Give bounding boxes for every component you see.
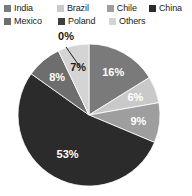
legend-item-chile[interactable]: Chile bbox=[107, 2, 149, 14]
chart-legend: IndiaBrazilChileChina MexicoPolandOthers bbox=[0, 0, 192, 26]
legend-row: IndiaBrazilChileChina bbox=[0, 2, 192, 14]
legend-label-chile: Chile bbox=[117, 3, 137, 13]
callout-label-0-percent: 0% bbox=[58, 30, 74, 42]
legend-swatch-chile bbox=[107, 5, 114, 12]
slice-value-label-mexico: 8% bbox=[49, 71, 65, 83]
legend-item-brazil[interactable]: Brazil bbox=[57, 2, 107, 14]
slice-value-label-india: 16% bbox=[102, 66, 124, 78]
legend-swatch-poland bbox=[58, 18, 65, 25]
slice-value-label-brazil: 6% bbox=[127, 91, 143, 103]
legend-swatch-india bbox=[4, 5, 11, 12]
legend-label-china: China bbox=[159, 3, 182, 13]
legend-swatch-others bbox=[109, 18, 116, 25]
legend-item-india[interactable]: India bbox=[0, 2, 57, 14]
legend-swatch-brazil bbox=[57, 5, 64, 12]
legend-label-others: Others bbox=[119, 16, 145, 26]
legend-label-mexico: Mexico bbox=[14, 16, 42, 26]
pie-svg: 0% 16%6%9%53%8%7% bbox=[0, 26, 192, 196]
slice-value-label-chile: 9% bbox=[130, 115, 146, 127]
legend-label-brazil: Brazil bbox=[67, 3, 89, 13]
slice-value-label-others: 7% bbox=[70, 61, 86, 73]
legend-swatch-mexico bbox=[4, 18, 11, 25]
legend-label-india: India bbox=[14, 3, 33, 13]
legend-label-poland: Poland bbox=[68, 16, 95, 26]
slice-value-label-china: 53% bbox=[57, 148, 79, 160]
pie-chart-figure: IndiaBrazilChileChina MexicoPolandOthers… bbox=[0, 0, 192, 196]
legend-swatch-china bbox=[149, 5, 156, 12]
pie-plot-area: 0% 16%6%9%53%8%7% bbox=[0, 26, 192, 196]
legend-item-china[interactable]: China bbox=[149, 2, 192, 14]
